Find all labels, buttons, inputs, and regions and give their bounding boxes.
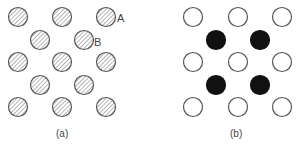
open-atom [229,98,248,117]
hatched-atom [75,31,94,50]
filled-atom [251,76,270,95]
open-atom [273,8,292,27]
open-atom [229,53,248,72]
hatched-atom [31,31,50,50]
open-atom [273,53,292,72]
hatched-atom [75,76,94,95]
panel-a [9,8,116,117]
open-atom [184,98,203,117]
hatched-atom [53,8,72,27]
hatched-atom [97,98,116,117]
caption-b: (b) [230,128,242,139]
hatched-atom [9,8,28,27]
hatched-atom [53,98,72,117]
open-atom [273,98,292,117]
hatched-atom [97,53,116,72]
hatched-atom [9,98,28,117]
panel-b [184,8,292,117]
open-atom [184,53,203,72]
diagram-canvas: A B (a) (b) [0,0,298,146]
open-atom [184,8,203,27]
filled-atom [207,76,226,95]
hatched-atom [97,8,116,27]
label-b: B [94,36,101,48]
filled-atom [207,31,226,50]
hatched-atom [53,53,72,72]
hatched-atom [31,76,50,95]
caption-a: (a) [56,128,68,139]
filled-atom [251,31,270,50]
open-atom [229,8,248,27]
label-a: A [117,12,125,24]
hatched-atom [9,53,28,72]
